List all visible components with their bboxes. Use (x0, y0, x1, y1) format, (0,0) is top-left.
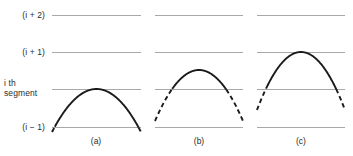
axis-label-ith-segment-line1: i th (4, 78, 52, 89)
axis-label-ith-segment-line2: segment (4, 88, 52, 99)
axis-label-i-minus-1: (i − 1) (0, 122, 45, 132)
figure-container: (i + 2) (i + 1) i th segment (i − 1) (a)… (0, 0, 353, 156)
curve-dashed-panel-1-0 (155, 89, 172, 121)
axis-label-i-plus-2: (i + 2) (0, 10, 45, 20)
curve-dashed-panel-1-2 (226, 89, 243, 121)
curve-solid-panel-0-1 (55, 89, 139, 127)
curve-dashed-panel-2-0 (257, 88, 266, 110)
curve-solid-panel-2-1 (266, 52, 336, 89)
axis-label-i-plus-1: (i + 1) (0, 47, 45, 57)
curve-solid-panel-1-1 (172, 70, 226, 89)
plot-canvas (0, 0, 353, 156)
curve-dashed-panel-2-2 (336, 89, 345, 110)
curve-dashed-panel-0-2 (139, 127, 141, 132)
panel-caption-a: (a) (76, 136, 116, 146)
panel-caption-b: (b) (179, 136, 219, 146)
panel-caption-c: (c) (281, 136, 321, 146)
